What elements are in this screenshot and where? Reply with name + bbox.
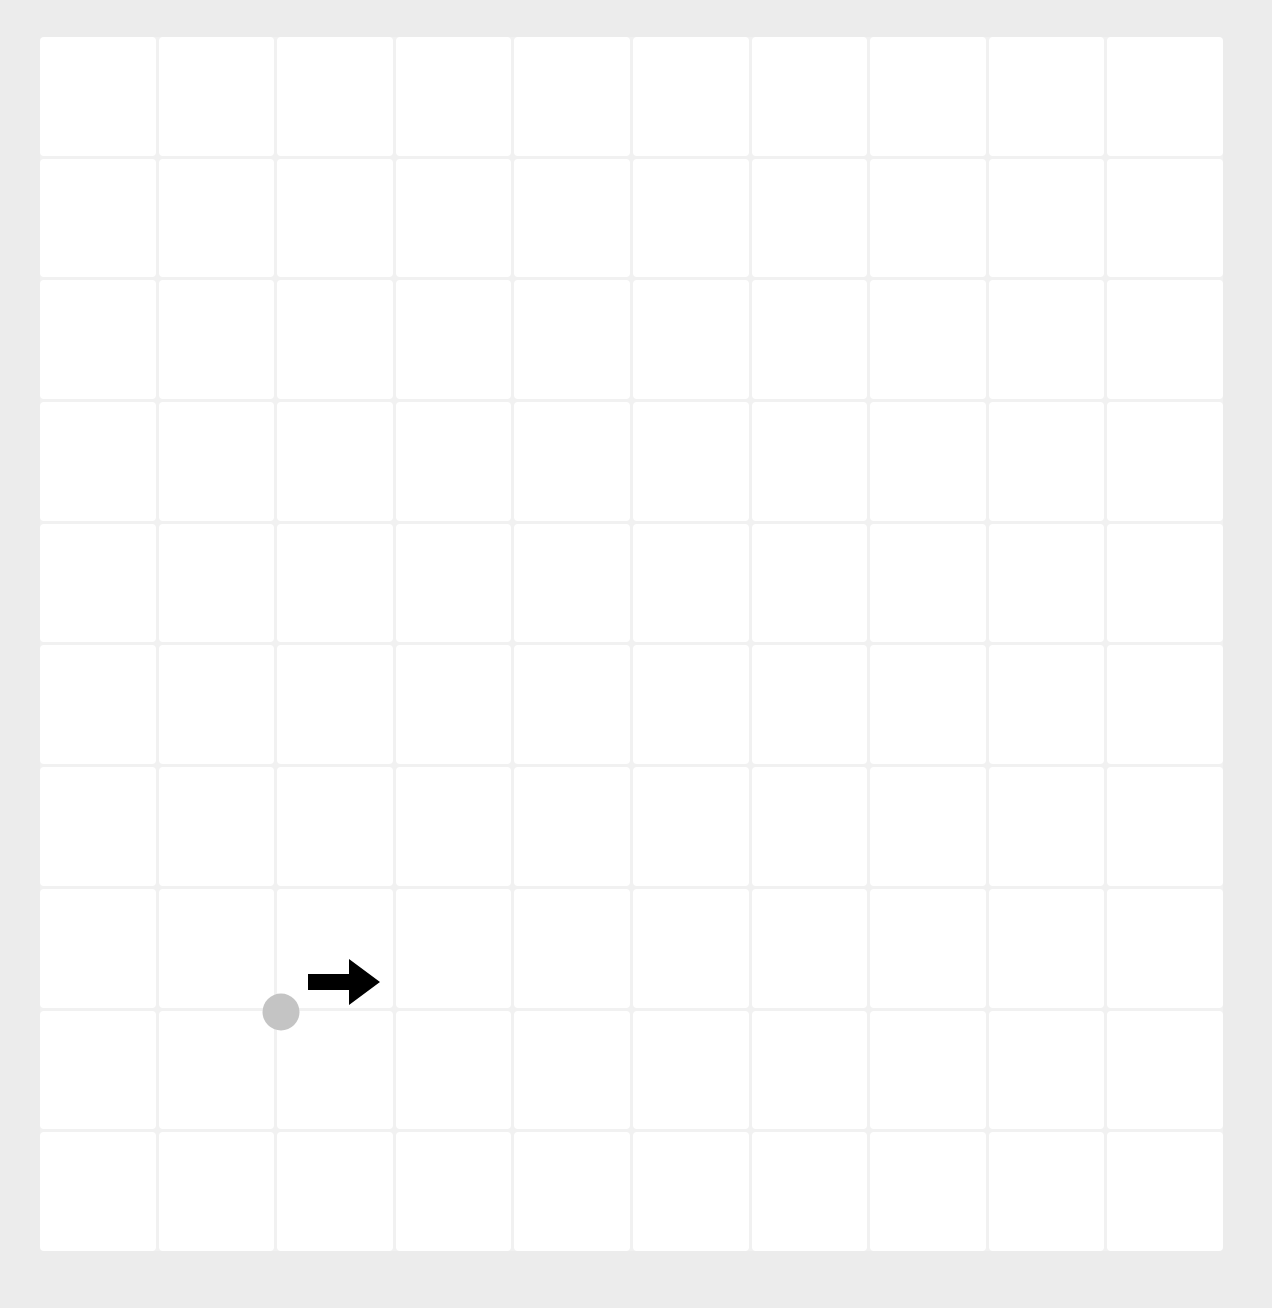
grid-cell [396, 280, 512, 399]
grid-cell [396, 159, 512, 278]
grid-cell [1107, 280, 1223, 399]
grid-cell [514, 1011, 630, 1130]
grid-cell [752, 280, 868, 399]
grid-cell [752, 767, 868, 886]
grid-cell [159, 1132, 275, 1251]
grid-cell [396, 524, 512, 643]
grid-cell [752, 524, 868, 643]
grid-cell [870, 1011, 986, 1130]
grid-cell [633, 402, 749, 521]
grid-cell [159, 524, 275, 643]
grid-cell [989, 280, 1105, 399]
grid-cell [633, 524, 749, 643]
grid-cell [989, 645, 1105, 764]
grid-cell [633, 889, 749, 1008]
grid-cell [514, 889, 630, 1008]
grid-cell [989, 767, 1105, 886]
grid-cell [396, 1132, 512, 1251]
grid-cell [40, 37, 156, 156]
grid-cell [752, 37, 868, 156]
grid-cell [40, 159, 156, 278]
grid-cell [396, 37, 512, 156]
grid-cell [277, 645, 393, 764]
grid-cell [396, 1011, 512, 1130]
grid-cell [989, 524, 1105, 643]
grid-cell [396, 767, 512, 886]
grid-cell [870, 767, 986, 886]
grid-cell [752, 1132, 868, 1251]
grid-cell [989, 159, 1105, 278]
grid-cell [870, 645, 986, 764]
grid-cell [870, 1132, 986, 1251]
grid-cell [514, 280, 630, 399]
grid-cell [396, 889, 512, 1008]
grid-cell [633, 280, 749, 399]
grid-cell [633, 1132, 749, 1251]
arrow-right-icon [308, 959, 380, 1005]
grid-cell [633, 645, 749, 764]
agent-marker [263, 994, 300, 1031]
grid-cell [159, 37, 275, 156]
grid-cell [277, 1132, 393, 1251]
grid-cell [1107, 37, 1223, 156]
grid-cell [870, 280, 986, 399]
grid-cell [1107, 524, 1223, 643]
grid-cell [514, 37, 630, 156]
grid-cell [633, 1011, 749, 1130]
grid-cell [40, 645, 156, 764]
grid-cell [159, 889, 275, 1008]
grid-cell [1107, 402, 1223, 521]
grid-cell [989, 402, 1105, 521]
grid-cell [159, 159, 275, 278]
grid-cell [514, 402, 630, 521]
grid-cell [514, 767, 630, 886]
grid-cell [159, 402, 275, 521]
grid-cell [989, 1011, 1105, 1130]
grid-cell [514, 645, 630, 764]
grid-cell [870, 402, 986, 521]
grid-cell [1107, 1132, 1223, 1251]
grid-cell [277, 767, 393, 886]
grid-cell [1107, 1011, 1223, 1130]
grid-cell [633, 767, 749, 886]
grid-cell [989, 889, 1105, 1008]
grid-cell [633, 37, 749, 156]
grid-cell [277, 280, 393, 399]
grid-cell [159, 645, 275, 764]
grid-cell [159, 1011, 275, 1130]
grid-cell [277, 1011, 393, 1130]
grid-cell [277, 524, 393, 643]
grid-cell [277, 402, 393, 521]
grid-cell [633, 159, 749, 278]
grid-cell [277, 37, 393, 156]
grid-cell [870, 524, 986, 643]
grid-cell [159, 767, 275, 886]
grid-cell [514, 159, 630, 278]
grid-cell [514, 1132, 630, 1251]
grid-cell [989, 1132, 1105, 1251]
grid-cell [40, 402, 156, 521]
grid-cell [752, 159, 868, 278]
grid-cell [752, 889, 868, 1008]
grid-cell [989, 37, 1105, 156]
grid-cell [40, 524, 156, 643]
grid-cell [40, 1011, 156, 1130]
grid-cell [1107, 889, 1223, 1008]
grid-cell [514, 524, 630, 643]
grid-cell [159, 280, 275, 399]
grid-cell [40, 767, 156, 886]
grid-cell [396, 645, 512, 764]
grid-cell [40, 280, 156, 399]
grid-cell [277, 159, 393, 278]
grid-cell [870, 159, 986, 278]
grid-cell [1107, 767, 1223, 886]
grid-cell [40, 1132, 156, 1251]
grid-cell [870, 889, 986, 1008]
grid-cell [752, 1011, 868, 1130]
game-board [40, 37, 1223, 1251]
grid-cell [870, 37, 986, 156]
grid-cell [396, 402, 512, 521]
grid-cell [752, 645, 868, 764]
grid-cell [40, 889, 156, 1008]
grid-cell [1107, 159, 1223, 278]
